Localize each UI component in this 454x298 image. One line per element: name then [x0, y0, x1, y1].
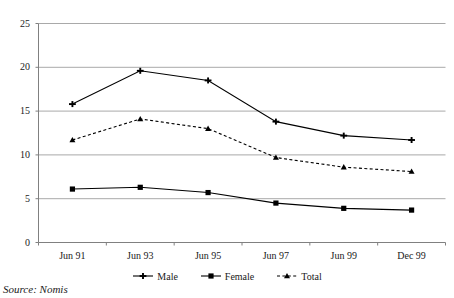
gridlines — [39, 24, 446, 199]
data-series-layer — [69, 68, 415, 213]
x-axis-tick-label: Jun 99 — [309, 250, 379, 261]
x-axis-tick-label: Jun 97 — [241, 250, 311, 261]
legend-label: Male — [157, 271, 178, 282]
y-axis-tick-label: 5 — [4, 194, 30, 204]
y-axis-tick-label: 10 — [4, 150, 30, 160]
y-axis-tick-label: 15 — [4, 106, 30, 116]
legend-label: Female — [225, 271, 254, 282]
x-axis-tick-label: Jun 91 — [37, 250, 107, 261]
legend-item-total[interactable]: Total — [276, 271, 321, 282]
legend-item-male[interactable]: Male — [132, 271, 178, 282]
chart-figure: 0510152025 Jun 91Jun 93Jun 95Jun 97Jun 9… — [0, 0, 454, 298]
y-axis-tick-label: 0 — [4, 238, 30, 248]
y-axis-tick-label: 25 — [4, 19, 30, 29]
x-axis-tick-label: Dec 99 — [377, 250, 447, 261]
y-axis-tick-label: 20 — [4, 62, 30, 72]
x-axis-tick-label: Jun 93 — [105, 250, 175, 261]
legend-marker-cross-icon — [132, 271, 154, 281]
source-caption: Source: Nomis — [3, 283, 68, 295]
legend-marker-square-icon — [200, 271, 222, 281]
axis-ticks — [36, 24, 446, 246]
legend-marker-triangle-icon — [276, 271, 298, 281]
chart-legend: MaleFemaleTotal — [0, 268, 454, 284]
x-axis-tick-label: Jun 95 — [173, 250, 243, 261]
legend-item-female[interactable]: Female — [200, 271, 254, 282]
legend-label: Total — [301, 271, 321, 282]
